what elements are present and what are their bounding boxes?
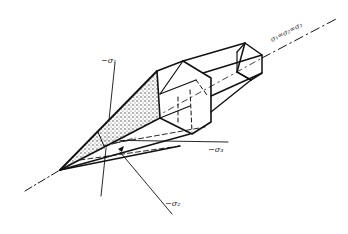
hexagonal-prism-large: [157, 61, 211, 134]
hydrostatic-axis-label: σ₁=σ₂=σ₃: [269, 21, 304, 44]
sigma1-label: −σ₁: [101, 56, 116, 65]
sigma2-label: −σ₂: [165, 199, 180, 208]
sigma3-label: −σ₃: [208, 145, 223, 154]
cone-surface: [60, 71, 205, 170]
yield-surface-diagram: −σ₁ −σ₃ −σ₂ σ₁=σ₂=σ₃: [0, 0, 348, 234]
hydrostatic-axis: [25, 18, 338, 191]
hexagonal-prism-long: [183, 43, 262, 112]
